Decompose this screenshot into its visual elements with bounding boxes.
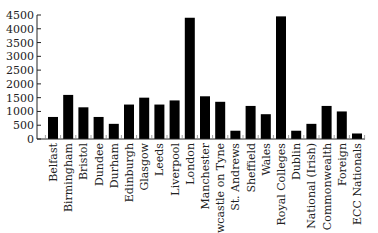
x-category-label: Manchester xyxy=(199,142,212,209)
bar-birmingham xyxy=(63,95,73,139)
y-tick-label: 2000 xyxy=(6,78,34,91)
y-tick-label: 2500 xyxy=(6,64,34,77)
bar-royal-colleges xyxy=(276,16,286,139)
y-tick-label: 1500 xyxy=(6,92,34,105)
bar-belfast xyxy=(48,117,58,139)
y-tick-label: 3000 xyxy=(6,50,34,63)
bar-durham xyxy=(109,124,119,139)
x-axis: BelfastBirminghamBristolDundeeDurhamEdin… xyxy=(37,135,365,233)
x-category-label: Sheffield xyxy=(245,143,258,193)
y-axis: 050010001500200025003000350040004500 xyxy=(6,9,41,146)
bar-national-irish xyxy=(306,124,316,139)
x-category-label: London xyxy=(184,143,197,185)
x-category-label: Durham xyxy=(108,142,121,188)
x-category-label: Dublin xyxy=(290,143,303,180)
y-tick-label: 0 xyxy=(27,133,34,146)
x-category-label: St. Andrews xyxy=(229,143,242,211)
bar-london xyxy=(185,18,195,139)
bar-liverpool xyxy=(170,100,180,139)
x-category-label: Wales xyxy=(260,143,273,176)
bar-glasgow xyxy=(139,98,149,139)
x-category-label: Leeds xyxy=(153,143,166,176)
x-category-label: Glasgow xyxy=(138,142,151,190)
bar-st-andrews xyxy=(230,131,240,139)
x-category-label: Liverpool xyxy=(169,143,182,196)
y-tick-label: 3500 xyxy=(6,37,34,50)
x-category-label: ECC Nationals xyxy=(351,143,364,225)
x-category-label: Dundee xyxy=(93,143,106,186)
x-category-label: Edinburgh xyxy=(123,143,136,202)
bar-manchester xyxy=(200,96,210,139)
y-tick-label: 4500 xyxy=(6,9,34,22)
y-tick-label: 500 xyxy=(13,119,34,132)
x-category-label: Foreign xyxy=(336,143,349,186)
y-tick-label: 4000 xyxy=(6,23,34,36)
bar-dundee xyxy=(94,117,104,139)
x-category-label: National (Irish) xyxy=(305,143,318,229)
x-category-label: Newcastle on Tyne xyxy=(214,143,227,233)
x-category-label: Royal Colleges xyxy=(275,143,288,226)
bar-dublin xyxy=(291,131,301,139)
bars xyxy=(48,16,362,139)
x-category-label: Belfast xyxy=(47,142,60,181)
x-category-label: Birmingham xyxy=(62,142,75,212)
bar-ecc-nationals xyxy=(352,133,362,139)
x-category-label: Commonwealth xyxy=(321,143,334,230)
bar-sheffield xyxy=(246,106,256,139)
bar-foreign xyxy=(337,111,347,139)
bar-bristol xyxy=(78,107,88,139)
bar-wales xyxy=(261,114,271,139)
bar-commonwealth xyxy=(322,106,332,139)
bar-edinburgh xyxy=(124,105,134,139)
bar-leeds xyxy=(154,105,164,139)
y-tick-label: 1000 xyxy=(6,105,34,118)
bar-chart: 050010001500200025003000350040004500 Bel… xyxy=(0,0,378,233)
x-category-label: Bristol xyxy=(77,143,90,181)
bar-newcastle-on-tyne xyxy=(215,102,225,139)
